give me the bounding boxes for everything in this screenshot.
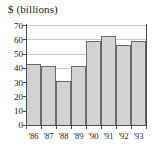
x-tick-mark-0 [26,125,27,129]
x-tick-label-86: '86 [26,131,41,141]
plot-area [26,25,146,125]
y-tick-label-70: 70 [3,22,23,31]
x-tick-mark-8 [146,125,147,129]
y-axis-line [26,24,27,126]
x-tick-mark-4 [86,125,87,129]
y-tick-label-40: 40 [3,64,23,73]
bar-chart-figure: $ (billions) 70 60 50 40 30 20 10 0 [0,0,154,153]
y-tick-label-50: 50 [3,50,23,59]
x-tick-label-88: '88 [56,131,71,141]
bar-92[interactable] [116,45,131,125]
bar-88[interactable] [56,81,71,125]
bar-93[interactable] [131,41,146,125]
bars-layer [26,25,146,125]
y-axis-line-right [146,24,147,126]
y-tick-label-0: 0 [3,121,23,130]
x-tick-label-90: '90 [86,131,101,141]
y-axis-labels: 70 60 50 40 30 20 10 0 [0,0,23,153]
x-tick-mark-3 [71,125,72,129]
bar-90[interactable] [86,41,101,125]
x-tick-label-91: '91 [101,131,116,141]
x-tick-label-89: '89 [71,131,86,141]
y-tick-label-20: 20 [3,93,23,102]
x-tick-mark-5 [101,125,102,129]
x-tick-label-87: '87 [41,131,56,141]
bar-87[interactable] [41,66,56,125]
bar-89[interactable] [71,66,86,125]
y-tick-label-10: 10 [3,107,23,116]
y-tick-label-30: 30 [3,79,23,88]
x-tick-label-92: '92 [116,131,131,141]
x-tick-mark-6 [116,125,117,129]
y-tick-label-60: 60 [3,36,23,45]
x-tick-mark-1 [41,125,42,129]
x-tick-label-93: '93 [131,131,146,141]
x-axis-labels: '86 '87 '88 '89 '90 '91 '92 '93 [26,131,146,145]
x-tick-mark-7 [131,125,132,129]
bar-86[interactable] [26,64,41,125]
x-tick-mark-2 [56,125,57,129]
bar-91[interactable] [101,36,116,125]
